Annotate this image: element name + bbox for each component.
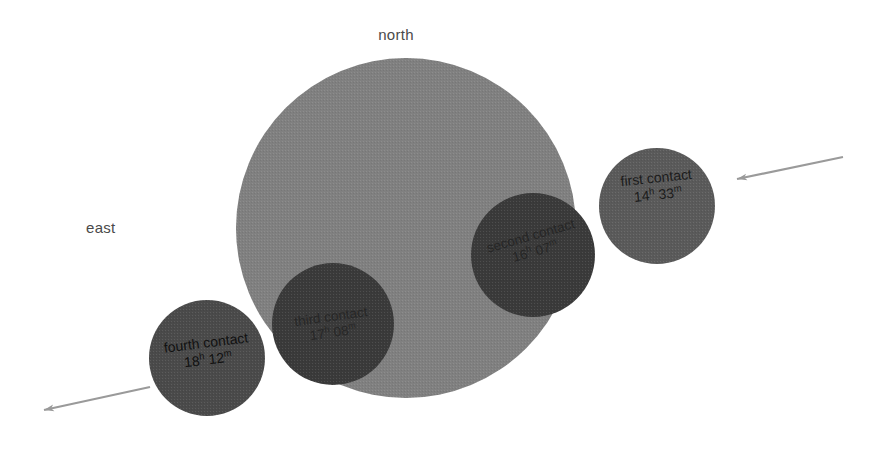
first-contact-texture	[599, 148, 715, 264]
second-contact-group	[471, 193, 595, 317]
third-contact-group	[272, 263, 394, 385]
motion-arrow-exit-icon	[44, 387, 150, 410]
third-contact-texture	[272, 263, 394, 385]
first-contact-group	[599, 148, 715, 264]
second-contact-texture	[471, 193, 595, 317]
cardinal-label-north: north	[378, 26, 414, 43]
motion-arrow-entry-icon	[737, 157, 843, 179]
cardinal-label-east: east	[86, 219, 116, 236]
fourth-contact-texture	[149, 300, 265, 416]
diagram-canvas	[0, 0, 871, 454]
fourth-contact-group	[149, 300, 265, 416]
occultation-diagram: north east first contact 14h 33m second …	[0, 0, 871, 454]
